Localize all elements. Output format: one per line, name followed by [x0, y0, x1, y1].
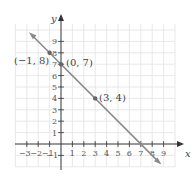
point-label-0-7: (0, 7)	[66, 57, 93, 68]
x-axis-label: x	[185, 148, 191, 159]
point-0-7	[59, 62, 63, 66]
y-tick-label: 3	[52, 106, 57, 115]
x-tick-label: 5	[115, 149, 120, 158]
x-axis-arrow-icon	[177, 141, 184, 147]
y-tick-label: 4	[52, 94, 57, 103]
axes	[15, 18, 180, 170]
y-tick-label: 2	[52, 117, 57, 126]
point-label-3-4: (3, 4)	[99, 92, 126, 103]
x-tick-label: 9	[161, 149, 166, 158]
y-tick-label: 9	[52, 37, 57, 46]
y-tick-label: 7	[52, 60, 57, 69]
x-tick-label: 2	[81, 149, 86, 158]
x-tick-label: 4	[104, 149, 109, 158]
x-tick-label: 7	[138, 149, 143, 158]
y-axis-arrow-icon	[58, 14, 64, 21]
y-axis-label: y	[50, 13, 57, 24]
x-tick-labels: −3 −2 −1 1 2 3 4 5 6 7 8 9	[19, 149, 166, 158]
coordinate-plane: −3 −2 −1 1 2 3 4 5 6 7 8 9 −1 1 2 3 4 5 …	[0, 0, 195, 179]
y-tick-label: −1	[46, 151, 58, 160]
x-tick-label: 6	[127, 149, 132, 158]
x-tick-label: 1	[70, 149, 75, 158]
y-tick-label: 1	[52, 129, 57, 138]
x-tick-label: 3	[93, 149, 98, 158]
point-3-4	[93, 96, 97, 100]
point-label-neg1-8: (−1, 8)	[14, 55, 49, 66]
x-tick-label: −3	[19, 149, 31, 158]
y-tick-label: 5	[52, 83, 57, 92]
x-tick-label: −2	[30, 149, 42, 158]
y-tick-label: 6	[52, 72, 57, 81]
